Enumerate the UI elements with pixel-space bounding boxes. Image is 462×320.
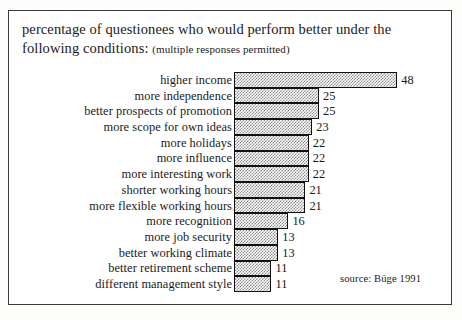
bar — [234, 245, 278, 261]
bar-wrapper: 11 — [234, 276, 271, 292]
bar-value-label: 13 — [282, 247, 294, 259]
bar-value-label: 21 — [309, 199, 321, 211]
bar-category-label: better retirement scheme — [108, 262, 232, 274]
bar-value-label: 48 — [401, 74, 413, 86]
bar-row: better working climate13 — [9, 245, 453, 261]
bar-value-label: 25 — [323, 105, 335, 117]
bar-category-label: more scope for own ideas — [103, 121, 232, 133]
bar-value-label: 23 — [316, 121, 328, 133]
bar — [234, 88, 319, 104]
bar-wrapper: 23 — [234, 119, 312, 135]
bar-wrapper: 21 — [234, 182, 305, 198]
page-title-line-2-main: following conditions: — [22, 40, 149, 56]
bar — [234, 276, 271, 292]
bar-value-label: 13 — [282, 231, 294, 243]
bar — [234, 119, 312, 135]
bar-category-label: more independence — [134, 89, 232, 101]
bar — [234, 135, 309, 151]
bar-value-label: 11 — [275, 278, 287, 290]
bar-value-label: 21 — [309, 184, 321, 196]
bar-row: higher income48 — [9, 72, 453, 88]
bar-row: more scope for own ideas23 — [9, 119, 453, 135]
chart-title-block: percentage of questionees who would perf… — [22, 20, 438, 57]
bar-category-label: different management style — [95, 278, 232, 290]
bar-row: more interesting work22 — [9, 166, 453, 182]
bar-row: shorter working hours21 — [9, 182, 453, 198]
bar-category-label: more flexible working hours — [89, 199, 232, 211]
bar-row: more recognition16 — [9, 213, 453, 229]
bar — [234, 198, 305, 214]
bar-wrapper: 48 — [234, 72, 397, 88]
bar — [234, 229, 278, 245]
bar-value-label: 22 — [313, 152, 325, 164]
scanned-page: percentage of questionees who would perf… — [0, 0, 462, 320]
source-note: source: Büge 1991 — [340, 273, 421, 284]
bar-value-label: 22 — [313, 137, 325, 149]
bar-wrapper: 25 — [234, 103, 319, 119]
page-title-line-2: following conditions: (multiple response… — [22, 39, 438, 58]
bar-category-label: shorter working hours — [122, 184, 232, 196]
bar — [234, 213, 288, 229]
bar-wrapper: 13 — [234, 229, 278, 245]
bar-row: more job security13 — [9, 229, 453, 245]
bar — [234, 103, 319, 119]
bar-category-label: more influence — [157, 152, 232, 164]
bar-row: more holidays22 — [9, 135, 453, 151]
bar-category-label: higher income — [160, 74, 232, 86]
bar — [234, 261, 271, 277]
bar-wrapper: 22 — [234, 151, 309, 167]
bar-wrapper: 22 — [234, 166, 309, 182]
bar-wrapper: 22 — [234, 135, 309, 151]
bar — [234, 72, 397, 88]
bar — [234, 166, 309, 182]
bar-wrapper: 16 — [234, 213, 288, 229]
bar-category-label: better working climate — [119, 247, 232, 259]
page-title-note: (multiple responses permitted) — [152, 43, 289, 55]
bar-row: more flexible working hours21 — [9, 198, 453, 214]
bar-value-label: 16 — [292, 215, 304, 227]
bar-wrapper: 25 — [234, 88, 319, 104]
bar-wrapper: 21 — [234, 198, 305, 214]
bar-category-label: more interesting work — [122, 168, 232, 180]
bar-category-label: more holidays — [161, 137, 232, 149]
bar-chart-plot: higher income48more independence25better… — [9, 72, 453, 302]
bar-category-label: better prospects of promotion — [84, 105, 232, 117]
bar-row: better prospects of promotion25 — [9, 103, 453, 119]
bar-row: more influence22 — [9, 151, 453, 167]
bar-value-label: 25 — [323, 89, 335, 101]
bar-wrapper: 11 — [234, 261, 271, 277]
bar-category-label: more job security — [144, 231, 232, 243]
chart-frame: percentage of questionees who would perf… — [8, 10, 452, 305]
bar-category-label: more recognition — [146, 215, 232, 227]
page-title-line-1: percentage of questionees who would perf… — [22, 20, 438, 39]
bar-row: more independence25 — [9, 88, 453, 104]
bar-value-label: 22 — [313, 168, 325, 180]
bar-wrapper: 13 — [234, 245, 278, 261]
bar — [234, 151, 309, 167]
bar-value-label: 11 — [275, 262, 287, 274]
bar — [234, 182, 305, 198]
